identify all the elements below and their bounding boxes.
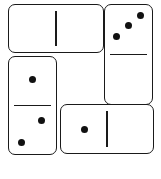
- domino-half-left: [9, 5, 56, 52]
- domino-pip: [113, 33, 120, 40]
- domino-pip: [18, 139, 25, 146]
- domino-right[interactable]: [104, 4, 153, 105]
- domino-pip: [81, 126, 88, 133]
- domino-pip: [137, 12, 144, 19]
- domino-half-top: [9, 57, 56, 106]
- domino-half-top: [105, 5, 152, 55]
- domino-half-bottom: [105, 55, 152, 105]
- domino-half-bottom: [9, 106, 56, 155]
- domino-half-right: [107, 105, 153, 153]
- domino-left[interactable]: [8, 56, 57, 155]
- domino-half-right: [56, 5, 103, 52]
- domino-half-left: [61, 105, 107, 153]
- domino-pip: [125, 22, 132, 29]
- domino-pip: [29, 76, 36, 83]
- domino-top-left[interactable]: [8, 4, 104, 53]
- domino-pip: [38, 117, 45, 124]
- domino-board: [0, 0, 161, 179]
- domino-bottom[interactable]: [60, 104, 154, 154]
